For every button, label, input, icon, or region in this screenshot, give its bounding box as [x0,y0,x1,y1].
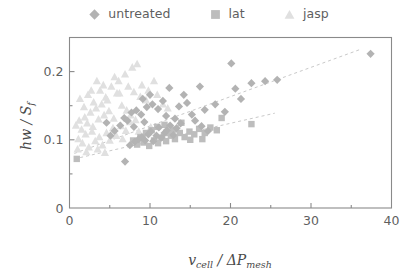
x-axis-label: vcell / ΔPmesh [188,252,272,270]
data-point-untreated [273,76,281,84]
y-tick-label: 0 [56,201,64,216]
data-point-jasp [76,94,84,102]
data-point-untreated [231,85,239,93]
data-point-jasp [80,103,88,111]
data-point-untreated [175,102,183,110]
data-point-untreated [162,112,170,120]
x-tick-label: 30 [303,213,319,228]
data-point-untreated [237,95,245,103]
data-point-untreated [227,59,235,67]
data-point-jasp [118,101,126,109]
data-point-jasp [99,81,107,89]
data-point-jasp [101,148,109,156]
data-point-untreated [201,106,209,114]
x-tick-label: 0 [66,213,74,228]
x-tick-label: 40 [384,213,400,228]
data-point-jasp [110,114,118,122]
data-point-jasp [133,60,141,68]
data-point-lat [74,156,80,162]
y-label-hw-sf: hw / S [18,106,34,150]
data-point-untreated [247,79,255,87]
data-point-untreated [121,158,129,166]
data-point-jasp [105,107,113,115]
x-label-sub-cell: cell [196,259,213,270]
y-axis-label: hw / Sf [18,101,36,150]
x-tick-label: 20 [223,213,239,228]
data-point-lat [248,121,254,127]
axis-ticklabels: 01020304000.10.2 [44,64,400,228]
y-tick-label: 0.1 [44,132,64,147]
data-point-jasp [124,82,132,90]
data-point-untreated [261,77,269,85]
x-label-slash: / [213,252,227,268]
scatter-plot-figure: untreated lat jasp 01020304000.10.2 vcel… [0,0,417,279]
x-label-delta-p: ΔP [226,252,247,268]
data-point-jasp [107,82,115,90]
x-tick-label: 10 [142,213,158,228]
data-point-jasp [90,98,98,106]
data-point-jasp [121,70,129,78]
data-point-untreated [159,97,167,105]
data-point-lat [187,137,193,143]
data-point-untreated [140,118,148,126]
data-point-jasp [150,77,158,85]
plot-canvas: 01020304000.10.2 vcell / ΔPmesh hw / Sf [0,0,417,279]
data-point-jasp [138,81,146,89]
data-point-jasp [102,93,110,101]
data-point-lat [199,136,205,142]
data-point-lat [218,115,224,121]
data-point-lat [191,131,197,137]
data-point-untreated [366,50,374,58]
data-point-jasp [93,77,101,85]
data-point-lat [146,143,152,149]
data-point-untreated [183,99,191,107]
data-point-untreated [196,83,204,91]
data-point-untreated [165,84,173,92]
data-point-jasp [110,73,118,81]
data-point-untreated [221,108,229,116]
data-point-untreated [102,119,110,127]
data-point-jasp [87,86,95,94]
data-point-jasp [95,133,103,141]
x-label-v: v [188,252,196,268]
data-point-lat [214,127,220,133]
data-point-lat [181,134,187,140]
y-label-sub-f: f [25,101,36,107]
y-tick-label: 0.2 [44,64,64,79]
data-point-untreated [180,91,188,99]
data-point-layer [72,50,375,166]
axis-ticks [70,72,352,208]
x-label-sub-mesh: mesh [246,259,272,270]
data-point-jasp [153,90,161,98]
